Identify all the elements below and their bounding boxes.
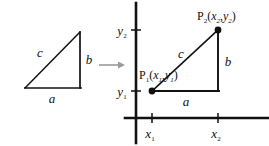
left-triangle-hypotenuse [25, 32, 80, 88]
cartesian-axes [125, 3, 268, 143]
x2-subscript: 2 [217, 135, 221, 143]
p2-close-paren: ) [232, 9, 236, 23]
arrow-head [118, 62, 125, 69]
y1-axis-label: y1 [115, 84, 127, 101]
maps-to-arrow [99, 62, 125, 69]
point-p1-label: P1(x1,y1) [139, 68, 178, 84]
point-labels: P1(x1,y1) P2(x2,y2) [139, 9, 236, 84]
point-p1-marker [149, 88, 156, 95]
x1-axis-label: x1 [144, 126, 155, 143]
coordinate-triangle-label-c: c [178, 46, 184, 61]
point-p2-marker [215, 27, 222, 34]
y2-subscript: 2 [123, 32, 127, 40]
left-triangle-label-a: a [49, 91, 56, 106]
point-p2-label: P2(x2,y2) [197, 9, 236, 25]
p1-close-paren: ) [174, 68, 178, 82]
left-triangle-label-b: b [86, 52, 93, 67]
figure-canvas: c b a y2 y1 [0, 0, 269, 146]
coordinate-triangle-label-b: b [225, 54, 232, 69]
left-triangle-group: c b a [25, 32, 93, 106]
x1-subscript: 1 [151, 135, 155, 143]
y1-subscript: 1 [123, 93, 127, 101]
x2-axis-label: x2 [210, 126, 221, 143]
y2-axis-label: y2 [115, 23, 127, 40]
left-triangle-label-c: c [37, 45, 43, 60]
geometry-figure: c b a y2 y1 [0, 0, 269, 146]
coordinate-triangle-label-a: a [183, 94, 190, 109]
